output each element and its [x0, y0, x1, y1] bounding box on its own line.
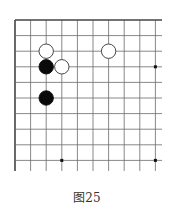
star-point	[154, 65, 157, 68]
white-stone	[55, 60, 69, 74]
black-stone	[39, 91, 53, 105]
star-point	[60, 159, 63, 162]
white-stone	[39, 44, 53, 58]
black-stone	[39, 60, 53, 74]
figure-caption: 图25	[0, 188, 174, 205]
star-point	[154, 159, 157, 162]
white-stone	[101, 44, 115, 58]
go-board	[0, 0, 174, 216]
board-grid	[15, 20, 162, 171]
